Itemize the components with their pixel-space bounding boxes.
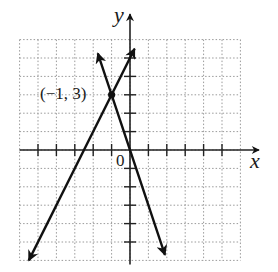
axes <box>20 14 259 264</box>
intersection-dot <box>108 91 115 98</box>
intersection-point <box>108 91 115 98</box>
coordinate-graph <box>0 0 278 272</box>
origin-label: 0 <box>116 152 125 169</box>
intersection-label: (−1, 3) <box>40 85 86 102</box>
line-2 <box>98 53 165 254</box>
x-axis-label: x <box>250 150 260 172</box>
y-axis-label: y <box>114 4 124 26</box>
plotted-lines <box>29 49 165 261</box>
